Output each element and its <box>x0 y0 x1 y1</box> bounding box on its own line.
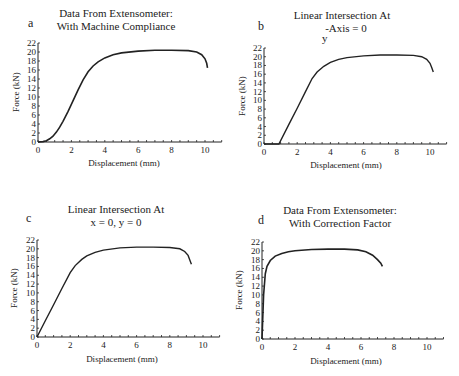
y-tick-label: 16 <box>26 261 36 271</box>
y-tick-label: 4 <box>32 119 37 129</box>
chart-d-ylabel: Force (kN) <box>234 270 244 310</box>
y-tick-label: 6 <box>258 113 263 123</box>
y-tick-label: 6 <box>31 306 36 316</box>
y-tick-label: 2 <box>31 323 36 333</box>
chart-d-curve <box>262 249 382 339</box>
x-tick-label: 2 <box>293 342 298 352</box>
chart-b-subtitle: -Axis = 0 <box>325 22 367 34</box>
x-tick-label: 6 <box>136 145 141 155</box>
x-tick-label: 2 <box>69 145 74 155</box>
chart-a-curve <box>38 50 208 142</box>
x-tick-label: 10 <box>199 340 209 350</box>
chart-d-plot: d Data From Extensometer: With Correctio… <box>230 190 459 376</box>
y-tick-label: 2 <box>258 130 263 140</box>
x-tick-label: 4 <box>101 340 106 350</box>
chart-d-title: Data From Extensometer: <box>283 204 397 216</box>
x-tick-label: 6 <box>134 340 139 350</box>
y-tick-label: 6 <box>32 110 37 120</box>
chart-c-panel-label: c <box>26 211 31 225</box>
chart-a-plot: a Data From Extensometer: With Machine C… <box>0 0 230 190</box>
y-tick-label: 10 <box>251 290 261 300</box>
y-tick-label: 8 <box>258 104 263 114</box>
x-tick-label: 2 <box>68 340 73 350</box>
y-tick-label: 20 <box>27 47 37 57</box>
chart-a-subtitle: With Machine Compliance <box>57 20 176 32</box>
chart-b-axes: 02468101214161820220246810 <box>253 43 447 157</box>
x-tick-label: 10 <box>426 147 436 157</box>
y-tick-label: 22 <box>251 237 260 247</box>
chart-a-ylabel: Force (kN) <box>11 72 21 112</box>
chart-d-xlabel: Displacement (mm) <box>310 356 382 366</box>
chart-a-axes: 02468101214161820220246810 <box>27 38 222 155</box>
y-tick-label: 20 <box>253 52 263 62</box>
y-tick-label: 12 <box>26 279 35 289</box>
x-tick-label: 0 <box>36 145 41 155</box>
x-tick-label: 10 <box>423 342 433 352</box>
y-tick-label: 20 <box>251 246 261 256</box>
chart-b-panel-label: b <box>258 19 264 33</box>
y-tick-label: 20 <box>26 244 36 254</box>
y-tick-label: 4 <box>256 316 261 326</box>
y-tick-label: 8 <box>256 299 261 309</box>
chart-panel-c: c Linear Intersection At x = 0, y = 0 Di… <box>0 190 230 376</box>
y-tick-label: 12 <box>253 87 262 97</box>
chart-c-axes: 02468101214161820220246810 <box>26 235 220 350</box>
x-tick-label: 0 <box>35 340 40 350</box>
chart-b-xlabel: Displacement (mm) <box>310 160 382 170</box>
y-tick-label: 18 <box>27 56 37 66</box>
y-tick-label: 12 <box>27 83 36 93</box>
x-tick-label: 10 <box>201 145 211 155</box>
chart-c-curve <box>37 247 191 337</box>
y-tick-label: 16 <box>27 65 37 75</box>
chart-b-ylabel: Force (kN) <box>237 76 247 116</box>
x-tick-label: 6 <box>361 147 366 157</box>
y-tick-label: 10 <box>253 95 263 105</box>
x-tick-label: 6 <box>359 342 364 352</box>
y-tick-label: 8 <box>32 101 37 111</box>
x-tick-label: 8 <box>168 340 173 350</box>
chart-panel-a: a Data From Extensometer: With Machine C… <box>0 0 230 190</box>
y-tick-label: 12 <box>251 281 260 291</box>
y-tick-label: 22 <box>253 43 262 53</box>
chart-b-plot: b Linear Intersection At -Axis = 0 y Dis… <box>230 0 459 190</box>
y-tick-label: 10 <box>27 92 37 102</box>
y-tick-label: 2 <box>32 128 37 138</box>
x-tick-label: 4 <box>103 145 108 155</box>
chart-b-curve <box>264 55 433 144</box>
y-tick-label: 16 <box>253 69 263 79</box>
chart-c-subtitle: x = 0, y = 0 <box>91 216 142 228</box>
y-tick-label: 18 <box>26 253 36 263</box>
chart-a-panel-label: a <box>28 16 34 30</box>
y-tick-label: 22 <box>27 38 36 48</box>
chart-c-xlabel: Displacement (mm) <box>86 354 158 364</box>
x-tick-label: 4 <box>326 342 331 352</box>
x-tick-label: 8 <box>169 145 174 155</box>
y-tick-label: 18 <box>251 255 261 265</box>
x-tick-label: 0 <box>262 147 267 157</box>
x-tick-label: 8 <box>395 147 400 157</box>
chart-c-ylabel: Force (kN) <box>9 268 19 308</box>
y-tick-label: 4 <box>31 314 36 324</box>
y-tick-label: 14 <box>253 78 263 88</box>
y-tick-label: 14 <box>27 74 37 84</box>
chart-a-xlabel: Displacement (mm) <box>88 158 160 168</box>
y-tick-label: 8 <box>31 297 36 307</box>
chart-d-subtitle: With Correction Factor <box>289 217 392 229</box>
chart-panel-b: b Linear Intersection At -Axis = 0 y Dis… <box>230 0 459 190</box>
chart-a-title: Data From Extensometer: <box>59 7 173 19</box>
x-tick-label: 0 <box>260 342 265 352</box>
x-tick-label: 2 <box>295 147 300 157</box>
chart-b-title: Linear Intersection At <box>294 9 391 21</box>
y-tick-label: 14 <box>251 272 261 282</box>
chart-c-title: Linear Intersection At <box>68 203 165 215</box>
chart-d-panel-label: d <box>258 213 264 227</box>
x-tick-label: 4 <box>328 147 333 157</box>
y-tick-label: 18 <box>253 60 263 70</box>
y-tick-label: 16 <box>251 263 261 273</box>
chart-b-subtitle-prefix: y <box>322 32 328 44</box>
y-tick-label: 6 <box>256 308 261 318</box>
x-tick-label: 8 <box>392 342 397 352</box>
chart-c-plot: c Linear Intersection At x = 0, y = 0 Di… <box>0 190 230 376</box>
y-tick-label: 14 <box>26 270 36 280</box>
y-tick-label: 2 <box>256 325 261 335</box>
